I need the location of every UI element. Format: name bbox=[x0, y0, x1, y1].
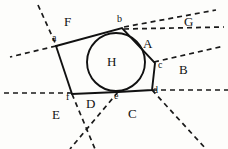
vertex-label-d: d bbox=[153, 85, 158, 95]
region-label-f: F bbox=[64, 15, 71, 28]
vertex-label-b: b bbox=[117, 14, 122, 24]
dashed-line-line-c-right bbox=[154, 46, 224, 62]
dashed-line-line-a-left bbox=[10, 46, 56, 57]
circumscribed-hexagon bbox=[56, 28, 155, 94]
region-label-e: E bbox=[52, 108, 60, 121]
region-label-d: D bbox=[86, 97, 95, 110]
dashed-line-line-b-upper bbox=[124, 10, 216, 27]
region-label-g: G bbox=[184, 15, 193, 28]
region-label-h: H bbox=[107, 55, 116, 68]
figure-canvas bbox=[0, 0, 228, 149]
region-label-c: C bbox=[128, 107, 137, 120]
vertex-label-f: f bbox=[66, 92, 69, 102]
vertex-label-c: c bbox=[158, 60, 162, 70]
dashed-tangent-lines bbox=[2, 5, 228, 149]
vertex-label-a: a bbox=[52, 33, 56, 43]
vertex-label-e: e bbox=[114, 91, 118, 101]
dashed-line-line-b-lower bbox=[124, 27, 224, 29]
region-label-a: A bbox=[143, 37, 152, 50]
geometry-figure: ABCDEFGH abcdef bbox=[0, 0, 228, 149]
region-label-b: B bbox=[179, 63, 188, 76]
dashed-line-line-d-down bbox=[152, 90, 206, 149]
